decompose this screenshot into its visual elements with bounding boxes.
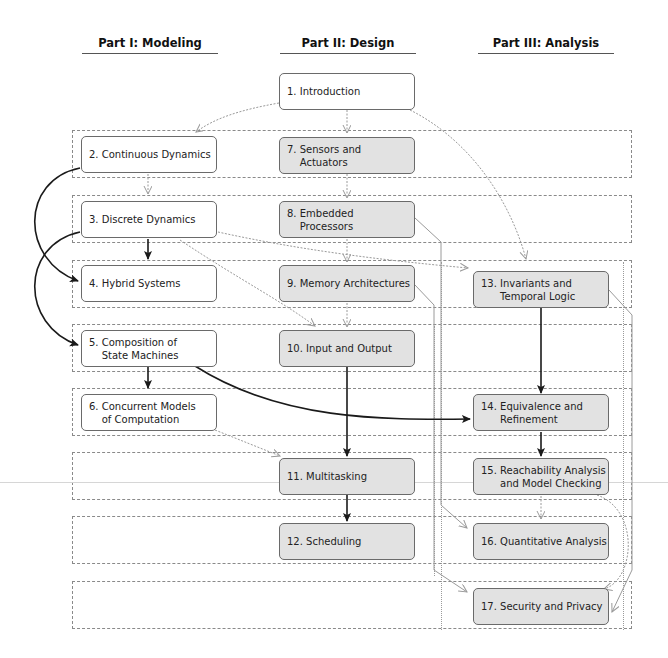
analysis-column-bracket <box>441 262 624 630</box>
chapter-label: 1. Introduction <box>287 85 360 98</box>
chapter-label: 3. Discrete Dynamics <box>89 213 196 226</box>
chapter-7-sensors-and-actuators[interactable]: 7. Sensors and Actuators <box>279 137 415 174</box>
design-column-bracket <box>434 326 436 576</box>
chapter-label: 15. Reachability Analysis and Model Chec… <box>481 464 606 490</box>
chapter-12-scheduling[interactable]: 12. Scheduling <box>279 523 415 560</box>
chapter-label: 5. Composition of State Machines <box>89 336 178 362</box>
chapter-label: 10. Input and Output <box>287 342 392 355</box>
chapter-17-security-and-privacy[interactable]: 17. Security and Privacy <box>473 588 609 625</box>
chapter-13-invariants-and-temporal-logic[interactable]: 13. Invariants and Temporal Logic <box>473 271 609 308</box>
chapter-1-introduction[interactable]: 1. Introduction <box>279 73 415 110</box>
chapter-15-reachability-analysis[interactable]: 15. Reachability Analysis and Model Chec… <box>473 458 609 495</box>
chapter-4-hybrid-systems[interactable]: 4. Hybrid Systems <box>81 265 217 302</box>
chapter-10-input-and-output[interactable]: 10. Input and Output <box>279 330 415 367</box>
chapter-2-continuous-dynamics[interactable]: 2. Continuous Dynamics <box>81 136 217 173</box>
chapter-label: 17. Security and Privacy <box>481 600 603 613</box>
chapter-5-composition-of-state-machines[interactable]: 5. Composition of State Machines <box>81 330 217 367</box>
chapter-9-memory-architectures[interactable]: 9. Memory Architectures <box>279 265 415 302</box>
chapter-label: 9. Memory Architectures <box>287 277 410 290</box>
chapter-3-discrete-dynamics[interactable]: 3. Discrete Dynamics <box>81 201 217 238</box>
chapter-label: 8. Embedded Processors <box>287 207 353 233</box>
chapter-8-embedded-processors[interactable]: 8. Embedded Processors <box>279 201 415 238</box>
chapter-6-concurrent-models[interactable]: 6. Concurrent Models of Computation <box>81 394 217 431</box>
chapter-16-quantitative-analysis[interactable]: 16. Quantitative Analysis <box>473 523 609 560</box>
chapter-14-equivalence-and-refinement[interactable]: 14. Equivalence and Refinement <box>473 394 609 431</box>
chapter-label: 14. Equivalence and Refinement <box>481 400 583 426</box>
header-part-design: Part II: Design <box>280 36 416 54</box>
header-part-analysis: Part III: Analysis <box>478 36 614 54</box>
chapter-label: 7. Sensors and Actuators <box>287 143 361 169</box>
chapter-label: 12. Scheduling <box>287 535 361 548</box>
chapter-label: 6. Concurrent Models of Computation <box>89 400 196 426</box>
chapter-label: 2. Continuous Dynamics <box>89 148 211 161</box>
header-part-modeling: Part I: Modeling <box>82 36 218 54</box>
chapter-label: 11. Multitasking <box>287 470 367 483</box>
chapter-label: 16. Quantitative Analysis <box>481 535 607 548</box>
chapter-11-multitasking[interactable]: 11. Multitasking <box>279 458 415 495</box>
chapter-label: 13. Invariants and Temporal Logic <box>481 277 575 303</box>
chapter-label: 4. Hybrid Systems <box>89 277 180 290</box>
